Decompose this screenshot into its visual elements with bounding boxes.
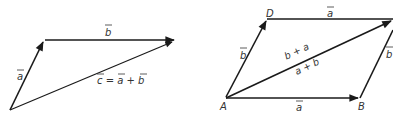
label-diagonal-lower: a + b: [293, 56, 321, 77]
point-a-label: A: [219, 101, 227, 112]
label-a-text: a: [17, 71, 23, 82]
label-c-equation: c = a + b: [97, 74, 147, 86]
label-bottom-a: a: [296, 101, 303, 113]
label-diagonal-upper: b + a: [283, 41, 311, 62]
vector-addition-diagram: a b c = a + b D A B a a: [0, 0, 393, 126]
triangle-rule-figure: a b c = a + b: [10, 25, 174, 110]
label-bottom-a-text: a: [296, 102, 302, 113]
vector-c-arrow: [10, 42, 172, 110]
label-right-b: b: [386, 47, 393, 60]
label-b: b: [105, 25, 112, 38]
vector-bc-line: [360, 30, 393, 98]
parallelogram-rule-figure: D A B a a b b b + a a + b: [219, 7, 393, 113]
point-b-label: B: [358, 101, 365, 112]
label-a: a: [17, 70, 24, 82]
label-top-a-text: a: [327, 8, 333, 19]
label-right-b-text: b: [386, 49, 392, 60]
point-d-label: D: [266, 8, 274, 19]
label-top-a: a: [327, 7, 334, 19]
label-left-b-text: b: [240, 50, 246, 61]
label-left-b: b: [240, 48, 247, 61]
label-diagonal-lower-text: a + b: [293, 56, 321, 77]
label-diagonal-upper-text: b + a: [283, 41, 311, 62]
label-b-text: b: [105, 27, 111, 38]
label-c-equation-text: c = a + b: [97, 75, 144, 86]
vector-a-arrow: [10, 42, 43, 110]
